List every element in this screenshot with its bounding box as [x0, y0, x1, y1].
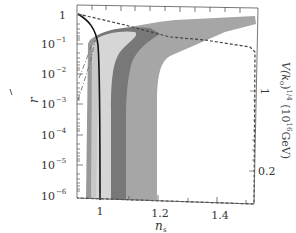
svg-text:10: 10: [41, 129, 55, 142]
svg-text:−3: −3: [56, 96, 66, 104]
svg-text:10: 10: [41, 68, 55, 81]
svg-text:−2: −2: [56, 66, 66, 74]
scan-mark: [10, 89, 12, 95]
svg-text:10: 10: [41, 98, 55, 111]
svg-text:−5: −5: [56, 157, 66, 165]
x-tick-label-1: 1: [97, 205, 104, 218]
y-tick-label-1e-6: 10 −6: [41, 188, 67, 203]
svg-text:s: s: [163, 226, 167, 233]
x-tick-label-1-4: 1.4: [211, 209, 229, 222]
y-axis-label: r: [27, 96, 41, 103]
y-tick-label-1e-2: 10 −2: [41, 66, 66, 81]
y2-tick-label-0-2: 0.2: [258, 165, 276, 178]
svg-text:V(ko)1/4 (1016GeV): V(ko)1/4 (1016GeV): [278, 62, 293, 159]
y2-tick-label-1: 1: [258, 88, 271, 95]
svg-text:10: 10: [41, 190, 55, 203]
chart: 1 10 −1 10 −2 10 −3 10 −4 10 −5 10 −6 r …: [0, 0, 296, 233]
y-tick-label-1: 1: [59, 9, 66, 22]
y-tick-label-1e-3: 10 −3: [41, 96, 66, 111]
svg-text:−4: −4: [56, 127, 67, 135]
y2-axis-label: V(ko)1/4 (1016GeV): [278, 62, 293, 159]
svg-text:−6: −6: [56, 188, 67, 196]
y-tick-label-1e-4: 10 −4: [41, 127, 67, 142]
left-ticks: [77, 15, 83, 191]
y-tick-label-1e-5: 10 −5: [41, 157, 66, 172]
y-tick-label-1e-1: 10 −1: [41, 36, 66, 51]
svg-text:10: 10: [41, 38, 55, 51]
svg-text:−1: −1: [56, 36, 66, 44]
svg-text:10: 10: [41, 159, 55, 172]
svg-text:n: n: [155, 219, 163, 233]
x-axis-label: n s: [155, 219, 167, 233]
